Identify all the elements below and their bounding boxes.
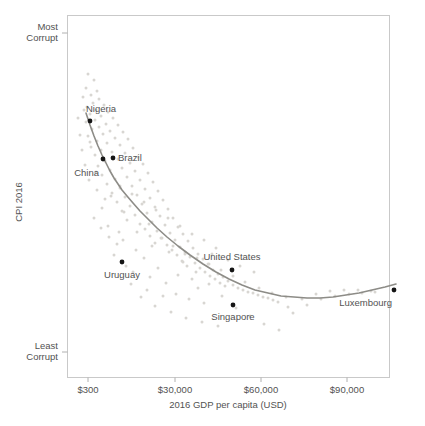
scatter-point (199, 267, 202, 270)
scatter-point (204, 271, 207, 274)
scatter-point (136, 194, 139, 197)
scatter-point (89, 141, 92, 144)
scatter-point (121, 167, 124, 170)
scatter-point (152, 181, 155, 184)
scatter-point (374, 291, 377, 294)
scatter-point (129, 205, 132, 208)
scatter-point (170, 311, 173, 314)
point-label-nigeria: Nigeria (86, 103, 117, 114)
scatter-point (167, 208, 170, 211)
scatter-point (82, 96, 85, 99)
scatter-point (146, 289, 149, 292)
scatter-point (162, 295, 165, 298)
scatter-point (197, 253, 200, 256)
y-tick-label: Most (37, 21, 58, 32)
x-tick-label: $90,000 (330, 384, 364, 395)
scatter-point (188, 298, 191, 301)
scatter-point (134, 170, 137, 173)
scatter-point (154, 242, 157, 245)
scatter-point (164, 224, 167, 227)
scatter-point (106, 142, 109, 145)
scatter-point (131, 193, 134, 196)
scatter-point (88, 179, 91, 182)
scatter-point (197, 287, 200, 290)
scatter-point (191, 233, 194, 236)
scatter-point (277, 301, 280, 304)
scatter-point (151, 245, 154, 248)
scatter-point (208, 263, 211, 266)
scatter-point (140, 296, 143, 299)
scatter-point (263, 323, 266, 326)
scatter-point (257, 294, 260, 297)
highlighted-point-united-states (230, 268, 235, 273)
point-label-uruguay: Uruguay (104, 269, 140, 280)
scatter-point (98, 98, 101, 101)
scatter-point (85, 87, 88, 90)
scatter-point (96, 90, 99, 93)
scatter-point (104, 198, 107, 201)
scatter-point (127, 138, 130, 141)
scatter-point (131, 185, 134, 188)
scatter-point (81, 149, 84, 152)
scatter-point (114, 137, 117, 140)
scatter-point (147, 172, 150, 175)
y-axis-title: CPI 2016 (13, 182, 24, 222)
scatter-point (177, 274, 180, 277)
scatter-point (247, 291, 250, 294)
scatter-point (85, 121, 88, 124)
scatter-point (116, 201, 119, 204)
scatter-point (258, 287, 261, 290)
scatter-point (224, 285, 227, 288)
scatter-point (134, 214, 137, 217)
scatter-point (109, 130, 112, 133)
scatter-point (94, 119, 97, 122)
scatter-point (149, 235, 152, 238)
scatter-point (208, 283, 211, 286)
point-label-united-states: United States (203, 251, 260, 262)
scatter-point (132, 147, 135, 150)
scatter-point (185, 317, 188, 320)
scatter-point (262, 296, 265, 299)
scatter-point (100, 227, 103, 230)
scatter-point (113, 254, 116, 257)
scatter-point (160, 237, 163, 240)
scatter-point (93, 79, 96, 82)
scatter-point (172, 245, 175, 248)
scatter-point (101, 207, 104, 210)
scatter-point (176, 254, 179, 257)
scatter-point (162, 199, 165, 202)
scatter-point (179, 225, 182, 228)
scatter-point (106, 183, 109, 186)
scatter-point (227, 280, 230, 283)
scatter-point (155, 209, 158, 212)
scatter-point (90, 146, 93, 149)
point-label-brazil: Brazil (118, 152, 142, 163)
y-tick-label: Corrupt (26, 32, 58, 43)
scatter-point (154, 305, 157, 308)
scatter-point (165, 282, 168, 285)
scatter-point (187, 240, 190, 243)
scatter-point (252, 292, 255, 295)
scatter-point (343, 289, 346, 292)
scatter-point (191, 278, 194, 281)
scatter-point (126, 176, 129, 179)
scatter-point (167, 217, 170, 220)
scatter-point (100, 115, 103, 118)
y-tick-label: Least (35, 340, 59, 351)
scatter-point (139, 179, 142, 182)
scatter-point (122, 131, 125, 134)
scatter-point (154, 206, 157, 209)
scatter-point (117, 124, 120, 127)
scatter-point (232, 275, 235, 278)
scatter-point (144, 188, 147, 191)
point-label-china: China (74, 167, 100, 178)
scatter-point (182, 261, 185, 264)
scatter-point (107, 225, 110, 228)
scatter-point (94, 154, 97, 157)
scatter-point (278, 329, 281, 332)
scatter-point (232, 284, 235, 287)
scatter-point (144, 228, 147, 231)
scatter-point (143, 201, 146, 204)
y-tick-label: Corrupt (26, 351, 58, 362)
scatter-point (237, 287, 240, 290)
